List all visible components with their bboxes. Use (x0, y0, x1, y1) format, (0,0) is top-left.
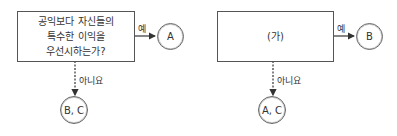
result-label-bc: B, C (64, 105, 84, 116)
question-text-left: 공익보다 자신들의 특수한 이익을 우선시하는가? (38, 14, 113, 59)
question-line-3: 우선시하는가? (38, 44, 113, 59)
result-label-a: A (167, 31, 174, 42)
result-label-ac: A, C (262, 105, 282, 116)
result-circle-b: B (356, 23, 383, 50)
no-label-left: 아니요 (79, 74, 103, 87)
result-circle-bc: B, C (60, 96, 88, 124)
no-label-right: 아니요 (277, 74, 301, 87)
question-text-right: (가) (267, 29, 284, 44)
decision-box-right: (가) (217, 11, 334, 62)
yes-label-right: 예 (337, 22, 345, 35)
result-circle-a: A (157, 23, 184, 50)
question-line-2: 특수한 이익을 (38, 29, 113, 44)
result-label-b: B (366, 31, 373, 42)
yes-label-left: 예 (138, 22, 146, 35)
question-line-1: 공익보다 자신들의 (38, 14, 113, 29)
decision-box-left: 공익보다 자신들의 특수한 이익을 우선시하는가? (17, 11, 135, 62)
result-circle-ac: A, C (258, 96, 286, 124)
